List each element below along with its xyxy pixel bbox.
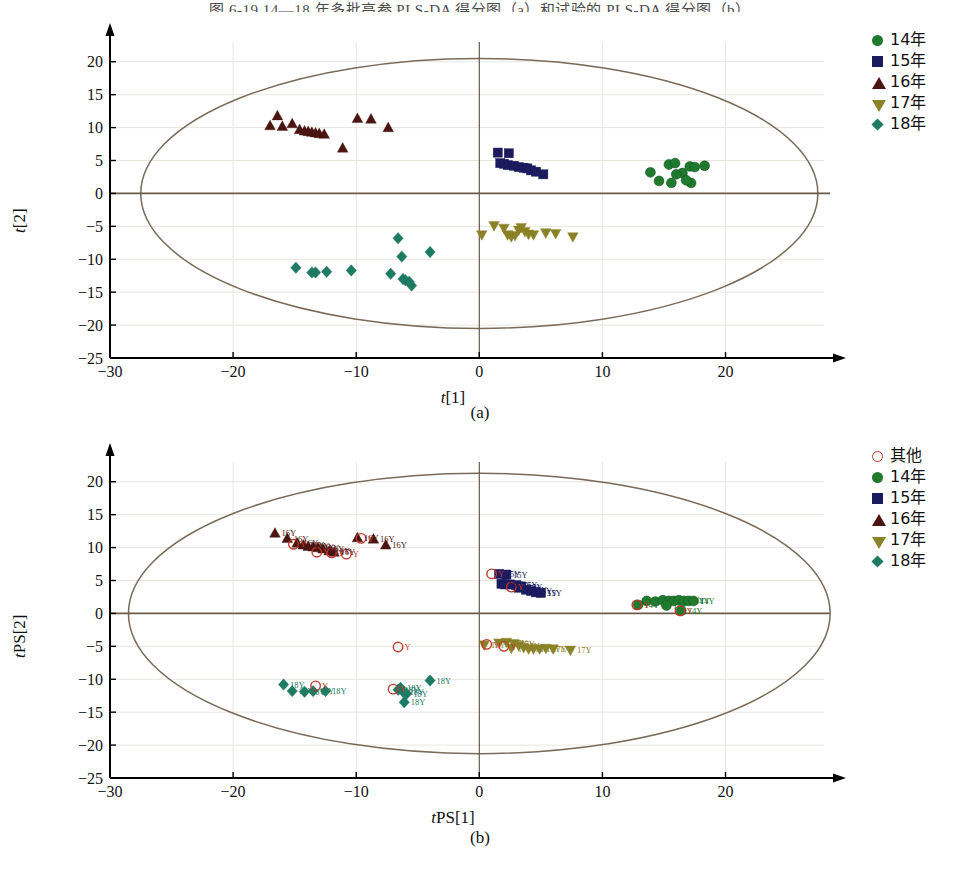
y-tick-label: 0: [95, 605, 103, 622]
gridlines: [110, 462, 824, 778]
x-tick-label: −20: [221, 363, 246, 380]
point-label: 15Y: [525, 583, 540, 593]
legend-marker-triangle-down-icon: [872, 534, 886, 548]
point-label: 18Y: [411, 697, 426, 707]
point-label: Y: [300, 539, 306, 549]
y-tick-label: 10: [87, 539, 103, 556]
plot-a-canvas: −30−20−1001020−25−20−15−10−505101520: [58, 28, 848, 373]
data-point-diamond: [425, 246, 435, 257]
plot-a-yaxis-label: t[2]: [10, 208, 30, 233]
point-label: 16Y: [392, 540, 407, 550]
point-label: Y: [498, 569, 504, 579]
data-point-open-circle: [393, 642, 403, 652]
plot-b: 14Y14Y14Y14Y14Y14Y14Y14Y14Y14Y14Y14Y15Y1…: [58, 448, 848, 793]
data-points: [265, 110, 710, 291]
plot-a-wrapper: −30−20−1001020−25−20−15−10−505101520 t[1…: [58, 28, 848, 373]
x-axis-arrow: [833, 774, 846, 783]
data-point-diamond: [393, 232, 403, 243]
panel-a-caption: (a): [0, 403, 960, 423]
data-point-square: [493, 148, 502, 157]
point-label: 14Y: [700, 596, 715, 606]
legend-label: 14年: [890, 469, 926, 486]
data-point-triangle-down: [476, 231, 487, 241]
legend-label: 15年: [890, 490, 926, 507]
figure-page: 图 6-19 14—18 年多批高参 PLS-DA 得分图（a）和试验的 PLS…: [0, 0, 960, 881]
data-point-circle: [666, 178, 676, 188]
data-point-triangle-up: [277, 121, 288, 131]
legend-item-18年[interactable]: 18年: [872, 114, 926, 135]
legend-panel-b: 其他14年15年16年17年18年: [872, 446, 926, 572]
legend-label: 15年: [890, 53, 926, 70]
y-tick-label: −10: [78, 251, 103, 268]
data-point-triangle-up: [383, 122, 394, 132]
data-point-diamond: [425, 675, 435, 686]
legend-label: 17年: [890, 95, 926, 112]
data-point-circle: [670, 158, 680, 168]
x-tick-label: 20: [718, 783, 734, 800]
legend-item-18年[interactable]: 18年: [872, 551, 926, 572]
legend-item-14年[interactable]: 14年: [872, 30, 926, 51]
data-point-circle: [700, 161, 710, 171]
data-point-diamond: [321, 266, 331, 277]
legend-label: 其他: [890, 448, 922, 465]
legend-label: 18年: [890, 116, 926, 133]
point-label: 18Y: [407, 683, 422, 693]
data-point-triangle-down: [540, 229, 551, 239]
point-label: Y: [323, 547, 329, 557]
legend-marker-open-circle-icon: [872, 450, 886, 464]
data-point-circle: [671, 169, 681, 179]
point-labels: 14Y14Y14Y14Y14Y14Y14Y14Y14Y14Y14Y14Y15Y1…: [281, 528, 714, 707]
legend-marker-triangle-down-icon: [872, 97, 886, 111]
y-tick-label: 15: [87, 86, 103, 103]
legend-item-15年[interactable]: 15年: [872, 488, 926, 509]
y-axis-arrow: [106, 443, 115, 456]
data-point-triangle-up: [352, 113, 363, 123]
legend-item-14年[interactable]: 14年: [872, 467, 926, 488]
point-label: Y: [643, 600, 649, 610]
legend-label: 16年: [890, 74, 926, 91]
legend-item-16年[interactable]: 16年: [872, 72, 926, 93]
data-points: [270, 528, 699, 708]
legend-item-17年[interactable]: 17年: [872, 530, 926, 551]
y-tick-label: −25: [78, 770, 103, 787]
y-tick-label: −15: [78, 704, 103, 721]
point-label: Y: [493, 640, 499, 650]
legend-item-其他[interactable]: 其他: [872, 446, 926, 467]
y-tick-label: −5: [86, 638, 103, 655]
y-tick-label: 15: [87, 506, 103, 523]
series-16年: [265, 110, 394, 152]
point-label: Y: [518, 582, 524, 592]
x-tick-label: 20: [718, 363, 734, 380]
x-tick-label: −20: [221, 783, 246, 800]
y-tick-label: −10: [78, 671, 103, 688]
point-label: Y: [405, 642, 411, 652]
plot-b-yaxis-label: tPS[2]: [10, 615, 30, 658]
x-tick-label: −10: [344, 363, 369, 380]
y-tick-label: 5: [95, 572, 103, 589]
point-label: 17Y: [560, 644, 575, 654]
legend-marker-diamond-icon: [872, 118, 886, 132]
legend-marker-circle-icon: [872, 34, 886, 48]
point-label: Y: [368, 534, 374, 544]
data-point-triangle-up: [272, 110, 283, 120]
legend-label: 14年: [890, 32, 926, 49]
plot-b-xaxis-label-text: PS[1]: [436, 808, 475, 827]
y-tick-label: 20: [87, 53, 103, 70]
plot-b-wrapper: 14Y14Y14Y14Y14Y14Y14Y14Y14Y14Y14Y14Y15Y1…: [58, 448, 848, 793]
y-tick-label: −15: [78, 284, 103, 301]
data-point-diamond: [385, 268, 395, 279]
data-point-diamond: [278, 679, 288, 690]
data-point-square: [504, 149, 513, 158]
legend-label: 18年: [890, 553, 926, 570]
data-point-square: [499, 159, 508, 168]
legend-item-16年[interactable]: 16年: [872, 509, 926, 530]
point-label: Y: [353, 549, 359, 559]
legend-marker-diamond-icon: [872, 555, 886, 569]
data-point-circle: [645, 167, 655, 177]
point-label: Y: [400, 684, 406, 694]
x-tick-label: 0: [475, 363, 483, 380]
data-point-triangle-down: [550, 229, 561, 239]
legend-label: 17年: [890, 532, 926, 549]
legend-item-15年[interactable]: 15年: [872, 51, 926, 72]
legend-item-17年[interactable]: 17年: [872, 93, 926, 114]
